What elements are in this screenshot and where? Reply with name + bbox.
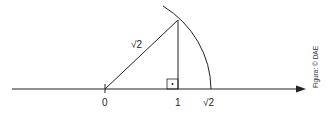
label-hypotenuse: √2: [131, 39, 142, 50]
label-zero: 0: [102, 97, 108, 108]
axis-arrow-icon: [296, 86, 306, 93]
label-one: 1: [175, 97, 181, 108]
label-sqrt2-axis: √2: [203, 97, 214, 108]
compass-arc: [163, 6, 211, 89]
figure-credit: Figura: © DAE: [312, 45, 320, 88]
number-line-diagram: 0 1 √2 √2 Figura: © DAE: [0, 0, 334, 117]
right-angle-dot: [172, 83, 174, 85]
